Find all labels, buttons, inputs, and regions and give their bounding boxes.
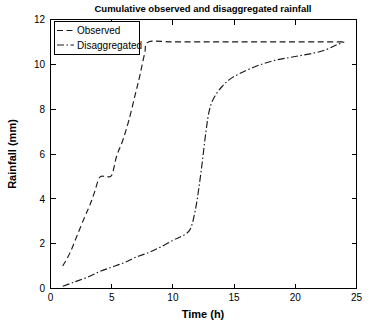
x-tick-label: 10 [167,292,179,303]
y-tick-label: 8 [39,104,45,115]
y-tick-label: 0 [39,283,45,294]
x-tick-label: 0 [48,292,54,303]
y-tick-group-12: 12 [34,14,46,25]
x-tick-label: 15 [229,292,241,303]
chart-title: Cumulative observed and disaggregated ra… [95,3,312,14]
y-axis-label: Rainfall (mm) [6,119,18,189]
x-tick-group-25: 25 [351,292,363,303]
y-tick-label: 12 [34,14,46,25]
rainfall-line-chart: Cumulative observed and disaggregated ra… [0,0,373,332]
x-tick-group-0: 0 [48,292,54,303]
y-tick-label: 6 [39,149,45,160]
legend-label-disaggregated: Disaggregated [77,40,142,51]
y-tick-label: 10 [34,59,46,70]
x-tick-label: 25 [351,292,363,303]
x-tick-label: 20 [290,292,302,303]
x-tick-label: 5 [109,292,115,303]
chart-figure: Cumulative observed and disaggregated ra… [0,0,373,332]
legend-label-observed: Observed [77,25,120,36]
x-axis-label: Time (h) [182,308,225,320]
legend: Observed Disaggregated [55,22,143,55]
y-tick-label: 4 [39,194,45,205]
y-tick-label: 2 [39,238,45,249]
